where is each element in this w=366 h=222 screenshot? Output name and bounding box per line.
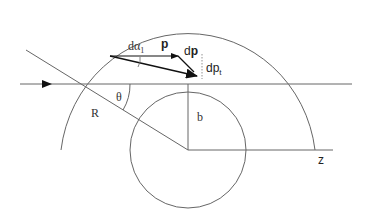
resultant-vector (110, 56, 197, 76)
label-p: p (161, 37, 168, 51)
label-dp: dp (184, 44, 198, 58)
label-b: b (197, 110, 203, 124)
label-dpt: dpt (206, 61, 222, 77)
incident-arrow-icon (42, 80, 52, 88)
scattering-diagram: dα1 p dp dpt θ R b z (0, 0, 366, 222)
label-d-alpha: dα1 (128, 39, 144, 55)
label-z: z (318, 153, 324, 167)
theta-arc (123, 84, 130, 110)
label-theta: θ (116, 90, 122, 104)
label-R: R (91, 106, 99, 120)
radius-line (26, 50, 188, 150)
dp-vector (178, 56, 194, 72)
